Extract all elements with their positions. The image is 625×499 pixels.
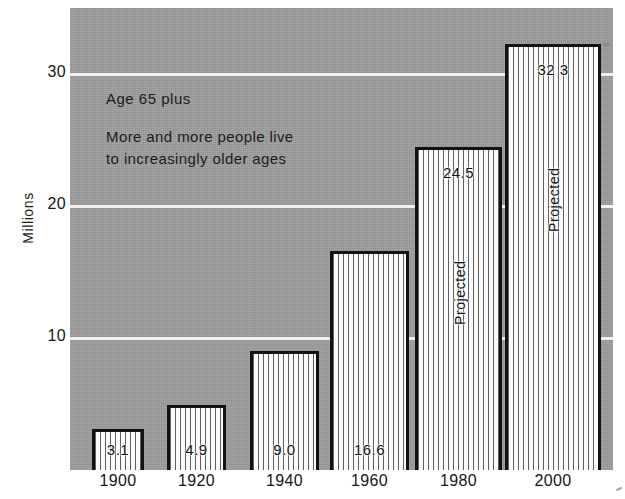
annotation-title: Age 65 plus — [106, 90, 294, 107]
bar-1940[interactable]: 9.0 — [250, 351, 319, 470]
bar-1980[interactable]: 24.5Projected — [415, 147, 502, 470]
page-artifact-mark-2 — [616, 487, 622, 491]
y-tick-label: 10 — [6, 327, 66, 345]
y-axis-tick-labels: 102030 — [0, 0, 66, 499]
annotation-line: to increasingly older ages — [106, 148, 294, 170]
bar-chart: Millions 102030 Age 65 plus More and mor… — [0, 0, 625, 499]
bar-value-label: 9.0 — [253, 441, 316, 458]
y-tick-label: 20 — [6, 195, 66, 213]
page-artifact-mark — [603, 42, 610, 47]
x-tick-label: 1940 — [266, 472, 303, 490]
bar-value-label: 32 3 — [508, 61, 598, 78]
x-tick-label: 1920 — [178, 472, 215, 490]
bar-2000[interactable]: 32 3Projected — [505, 44, 601, 470]
bar-note-projected: Projected — [452, 260, 468, 325]
bar-value-label: 3.1 — [95, 441, 141, 458]
y-tick-label: 30 — [6, 63, 66, 81]
bar-note-projected: Projected — [546, 167, 562, 232]
annotation-lines: More and more people liveto increasingly… — [106, 126, 294, 170]
bar-value-label: 24.5 — [418, 164, 499, 181]
bar-value-label: 16.6 — [333, 441, 406, 458]
annotation-line: More and more people live — [106, 126, 294, 148]
x-tick-label: 2000 — [534, 472, 571, 490]
x-tick-label: 1960 — [351, 472, 388, 490]
plot-area: Age 65 plus More and more people liveto … — [70, 8, 613, 470]
annotation-block: Age 65 plus More and more people liveto … — [106, 90, 294, 170]
bar-value-label: 4.9 — [170, 441, 223, 458]
bar-1960[interactable]: 16.6 — [330, 251, 409, 470]
bar-1920[interactable]: 4.9 — [167, 405, 226, 470]
bar-1900[interactable]: 3.1 — [92, 429, 144, 470]
x-tick-label: 1900 — [99, 472, 136, 490]
x-tick-label: 1980 — [440, 472, 477, 490]
x-axis-tick-labels: 190019201940196019802000 — [70, 472, 613, 499]
